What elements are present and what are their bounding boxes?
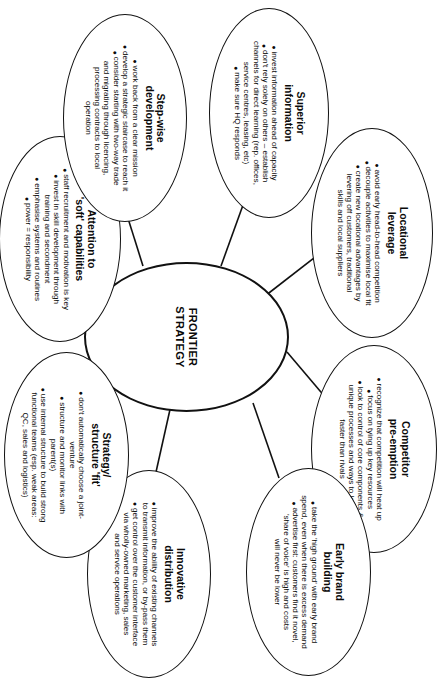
bullet-text: recognize that competition will heat up	[375, 384, 384, 521]
bullet-icon: ●	[357, 380, 364, 384]
connector-center-to-innovative	[154, 405, 171, 481]
bullet-icon: ●	[355, 164, 362, 168]
list-item: ●don't rely solely on others – establish…	[242, 9, 269, 217]
list-item: ●take the 'high ground' with early brand…	[300, 469, 318, 675]
bullet-text: improve the ability of existing channels…	[141, 503, 159, 647]
bullet-text: use internal structure to build strong f…	[21, 392, 48, 522]
bullet-icon: ●	[233, 66, 240, 70]
node-strategy-structure-fit[interactable]: Strategy/ structure 'fit' ●don't automat…	[4, 352, 129, 558]
bullet-text: focus on tying up key resources	[366, 395, 375, 509]
bullet-text: take the 'high ground' with early brand …	[300, 495, 318, 648]
bullet-icon: ●	[122, 45, 129, 49]
bullet-text: don't automatically choose a joint- vent…	[68, 397, 86, 519]
node-locational-leverage[interactable]: Locational leverage ●avoid early head-to…	[311, 128, 433, 338]
bullet-text: create new locational advantages by leve…	[336, 171, 363, 302]
list-item: ●structure and monitor links with parent…	[49, 353, 67, 557]
list-item: ●create new locational advantages by lev…	[336, 129, 363, 337]
node-title: Innovative distribution	[162, 545, 186, 603]
list-item: ●recognize that competition will heat up	[375, 346, 384, 552]
bullet-icon: ●	[366, 389, 373, 393]
bullet-icon: ●	[374, 163, 381, 167]
bullet-icon: ●	[291, 501, 298, 505]
list-item: ●invest information ahead of capacity	[270, 9, 279, 217]
bullet-icon: ●	[78, 391, 85, 395]
node-title: Strategy/ structure 'fit'	[89, 423, 113, 486]
connector-center-to-competitor	[287, 352, 326, 398]
bullet-icon: ●	[132, 59, 139, 63]
node-step-wise-development[interactable]: Step-wise development ●work back from a …	[63, 14, 187, 222]
bullet-icon: ●	[132, 502, 139, 506]
node-bullet-list: ●avoid early head-to-head competition ●d…	[335, 129, 382, 337]
bullet-icon: ●	[364, 160, 371, 164]
bullet-text: invest in skill development through trai…	[43, 180, 61, 304]
bullet-icon: ●	[40, 388, 47, 392]
list-item: ●develop a strategic staircase to reach …	[121, 15, 130, 221]
list-item: ●power = responsibility	[23, 137, 32, 341]
list-item: ●consider starting with two-way trade an…	[84, 15, 121, 221]
node-bullet-list: ●staff recruitment and motivation is key…	[23, 137, 71, 341]
bullet-text: emphasise systems and routines	[33, 183, 42, 301]
node-title: Early brand building	[322, 543, 346, 601]
bullet-text: invest information ahead of capacity	[270, 52, 279, 181]
list-item: ●advertise first: customers find it nove…	[272, 469, 299, 675]
list-item: ●work back from a clear mission	[131, 15, 140, 221]
bullet-icon: ●	[261, 44, 268, 48]
node-bullet-list: ●don't automatically choose a joint- ven…	[21, 353, 86, 557]
bullet-icon: ●	[310, 501, 317, 505]
bullet-text: develop a strategic staircase to reach i…	[121, 51, 130, 191]
bullet-text: avoid early head-to-head competition	[373, 170, 382, 303]
center-node-title: FRONTIER STRATEGY	[174, 306, 200, 367]
bullet-icon: ●	[24, 197, 31, 201]
list-item: ●staff recruitment and motivation is key	[61, 137, 70, 341]
node-superior-information[interactable]: Superior information ●invest information…	[209, 8, 329, 218]
list-item: ●make sure HQ responds	[233, 9, 242, 217]
bullet-text: consider starting with two-way trade and…	[84, 57, 120, 186]
list-item: ●don't automatically choose a joint- ven…	[68, 353, 86, 557]
node-bullet-list: ●take the 'high ground' with early brand…	[272, 469, 319, 675]
list-item: ●improve the ability of existing channel…	[141, 471, 159, 677]
bullet-icon: ●	[53, 174, 60, 178]
bullet-icon: ●	[271, 45, 278, 49]
bullet-icon: ●	[62, 168, 69, 172]
node-title: Locational leverage	[385, 207, 409, 260]
list-item: ●use internal structure to build strong …	[21, 353, 48, 557]
bullet-icon: ●	[151, 502, 158, 506]
node-title: Competitor pre-emption	[387, 419, 411, 480]
node-bullet-list: ●invest information ahead of capacity ●d…	[232, 9, 279, 217]
bullet-icon: ●	[34, 177, 41, 181]
bullet-text: make sure HQ responds	[233, 72, 242, 160]
node-early-brand-building[interactable]: Early brand building ●take the 'high gro…	[246, 468, 371, 676]
list-item: ●avoid early head-to-head competition	[373, 129, 382, 337]
node-bullet-list: ●work back from a clear mission ●develop…	[84, 15, 140, 221]
bullet-text: decouple activities to maximise local fi…	[364, 167, 373, 306]
bullet-icon: ●	[376, 377, 383, 381]
bullet-text: don't rely solely on others – establish …	[242, 41, 269, 185]
diagram-canvas: FRONTIER STRATEGY Locational leverage ●a…	[0, 0, 439, 699]
list-item: ●focus on tying up key resources	[366, 346, 375, 552]
bullet-text: staff recruitment and motivation is key	[62, 174, 71, 310]
bullet-text: work back from a clear mission	[131, 66, 140, 177]
connector-center-to-earlybrand	[253, 403, 279, 478]
bullet-text: structure and monitor links with parent(…	[49, 402, 67, 514]
node-title: Step-wise development	[143, 86, 167, 151]
list-item: ●emphasise systems and routines	[33, 137, 42, 341]
bullet-text: get control over the customer interface …	[113, 508, 140, 646]
bullet-icon: ●	[112, 51, 119, 55]
list-item: ●invest in skill development through tra…	[43, 137, 61, 341]
list-item: ●decouple activities to maximise local f…	[364, 129, 373, 337]
bullet-text: advertise first: customers find it novel…	[273, 507, 300, 642]
bullet-icon: ●	[59, 396, 66, 400]
node-title: Superior information	[282, 84, 306, 142]
bullet-text: power = responsibility	[24, 203, 33, 281]
mind-map: FRONTIER STRATEGY Locational leverage ●a…	[0, 0, 439, 699]
